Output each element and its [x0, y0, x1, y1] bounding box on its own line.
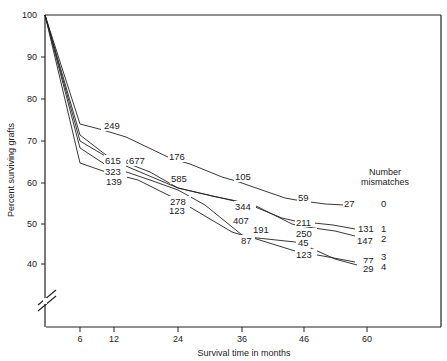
count-labels: 249 176 105 59 27 615 585 344 211 131 67…: [101, 120, 378, 274]
y-tick-label: 80: [27, 94, 37, 104]
y-tick-label: 70: [27, 136, 37, 146]
count-label: 615: [105, 155, 121, 166]
y-tick-label: 40: [27, 259, 37, 269]
y-tick-label: 60: [27, 178, 37, 188]
legend-title-line2: mismatches: [361, 177, 410, 187]
count-label: 105: [235, 171, 251, 182]
count-label: 249: [104, 120, 120, 131]
count-label: 59: [298, 192, 309, 203]
survival-chart: 100 90 80 70 60 50 40 Percent surviving …: [0, 0, 447, 361]
count-label: 87: [241, 235, 252, 246]
x-axis-label: Survival time in months: [197, 348, 291, 358]
count-label: 123: [296, 249, 312, 260]
legend-entry-0: 0: [381, 198, 386, 209]
count-label: 29: [363, 263, 374, 274]
curve-0-mismatches: [45, 15, 344, 205]
count-label: 677: [129, 155, 145, 166]
count-label: 139: [106, 176, 122, 187]
count-label: 407: [233, 215, 249, 226]
legend-entry-2: 2: [381, 233, 386, 244]
y-axis-label: Percent surviving grafts: [6, 122, 16, 217]
axis-break-icon: [38, 290, 56, 311]
x-tick-label: 12: [109, 334, 119, 344]
count-label: 344: [235, 201, 251, 212]
x-tick-label: 60: [362, 334, 372, 344]
count-label: 585: [171, 173, 187, 184]
y-tick-label: 50: [27, 219, 37, 229]
count-label: 123: [169, 205, 185, 216]
y-tick-label: 90: [27, 52, 37, 62]
x-tick-label: 6: [77, 334, 82, 344]
legend-entry-4: 4: [381, 261, 386, 272]
x-tick-label: 36: [237, 334, 247, 344]
count-label: 27: [344, 198, 355, 209]
x-tick-label: 24: [173, 334, 183, 344]
x-ticks: [80, 327, 367, 332]
count-label: 45: [298, 237, 309, 248]
count-label: 211: [296, 217, 311, 228]
count-label: 147: [357, 235, 373, 246]
x-tick-labels: 6 12 24 36 46 60: [77, 334, 372, 344]
legend-title-line1: Number: [369, 167, 401, 177]
count-label: 176: [169, 151, 185, 162]
x-tick-label: 46: [299, 334, 309, 344]
count-label: 131: [358, 223, 374, 234]
y-tick-label: 100: [22, 10, 37, 20]
y-tick-labels: 100 90 80 70 60 50 40: [22, 10, 37, 269]
count-label: 191: [253, 224, 269, 235]
